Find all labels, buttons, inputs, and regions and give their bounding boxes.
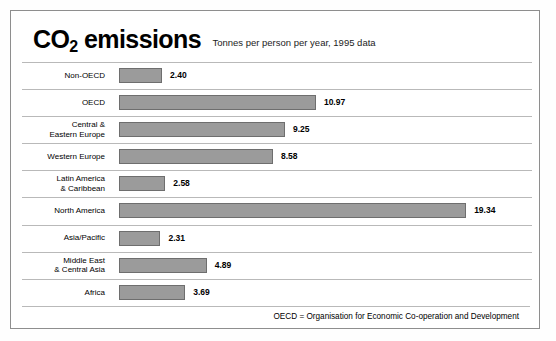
figure-frame: CO2 emissions Tonnes per person per year… — [10, 10, 540, 329]
bar — [119, 95, 316, 110]
bar-value-label: 10.97 — [324, 96, 345, 109]
bar — [119, 68, 162, 83]
category-label: Latin America& Caribbean — [22, 170, 112, 197]
chart-header: CO2 emissions Tonnes per person per year… — [33, 25, 525, 59]
chart-row: Asia/Pacific2.31 — [22, 225, 530, 252]
title-rest: emissions — [78, 25, 201, 53]
category-label: Africa — [22, 279, 112, 306]
chart-row: Latin America& Caribbean2.58 — [22, 170, 530, 197]
chart-row: Africa3.69 — [22, 279, 530, 306]
category-label: Asia/Pacific — [22, 225, 112, 252]
bar-value-label: 9.25 — [293, 123, 310, 136]
bar — [119, 176, 165, 191]
bar-value-label: 2.31 — [168, 232, 185, 245]
bar — [119, 122, 285, 137]
category-label: Central &Eastern Europe — [22, 116, 112, 143]
bar — [119, 149, 273, 164]
bar — [119, 285, 185, 300]
bar — [119, 203, 466, 218]
title-subscript: 2 — [69, 38, 77, 55]
bar-track: 10.97 — [119, 89, 530, 116]
bar-track: 2.40 — [119, 62, 530, 89]
category-label-line: & Central Asia — [54, 265, 105, 275]
footer-divider — [22, 306, 530, 307]
chart-footnote: OECD = Organisation for Economic Co-oper… — [273, 312, 519, 321]
bar-value-label: 2.40 — [170, 69, 187, 82]
category-label-line: Africa — [85, 288, 105, 298]
bar-value-label: 8.58 — [281, 150, 298, 163]
bar-chart-plot: Non-OECD2.40OECD10.97Central &Eastern Eu… — [22, 62, 530, 306]
chart-row: Non-OECD2.40 — [22, 62, 530, 89]
bar-value-label: 4.89 — [215, 259, 232, 272]
category-label-line: & Caribbean — [61, 184, 105, 194]
title-main: CO — [33, 25, 69, 53]
bar-track: 9.25 — [119, 116, 530, 143]
bar — [119, 258, 207, 273]
category-label: Western Europe — [22, 143, 112, 170]
bar — [119, 231, 160, 246]
category-label: Non-OECD — [22, 62, 112, 89]
category-label-line: Central & — [72, 120, 105, 130]
category-label: OECD — [22, 89, 112, 116]
chart-row: OECD10.97 — [22, 89, 530, 116]
chart-row: Central &Eastern Europe9.25 — [22, 116, 530, 143]
bar-track: 4.89 — [119, 252, 530, 279]
bar-value-label: 19.34 — [474, 204, 495, 217]
bar-track: 3.69 — [119, 279, 530, 306]
category-label-line: North America — [54, 206, 105, 216]
chart-subtitle: Tonnes per person per year, 1995 data — [212, 37, 375, 48]
category-label-line: Middle East — [63, 256, 105, 266]
figure-page: CO2 emissions Tonnes per person per year… — [0, 0, 556, 341]
category-label-line: OECD — [82, 98, 105, 108]
bar-track: 8.58 — [119, 143, 530, 170]
bar-track: 2.31 — [119, 225, 530, 252]
page-title: CO2 emissions — [33, 25, 201, 54]
category-label-line: Non-OECD — [65, 71, 105, 81]
bar-value-label: 2.58 — [173, 177, 190, 190]
category-label-line: Eastern Europe — [49, 130, 105, 140]
bar-track: 2.58 — [119, 170, 530, 197]
chart-row: Western Europe8.58 — [22, 143, 530, 170]
chart-row: Middle East& Central Asia4.89 — [22, 252, 530, 279]
category-label: North America — [22, 197, 112, 224]
chart-row: North America19.34 — [22, 197, 530, 224]
category-label-line: Western Europe — [47, 152, 105, 162]
category-label-line: Latin America — [57, 174, 105, 184]
category-label-line: Asia/Pacific — [64, 233, 105, 243]
category-label: Middle East& Central Asia — [22, 252, 112, 279]
bar-track: 19.34 — [119, 197, 530, 224]
bar-value-label: 3.69 — [193, 286, 210, 299]
